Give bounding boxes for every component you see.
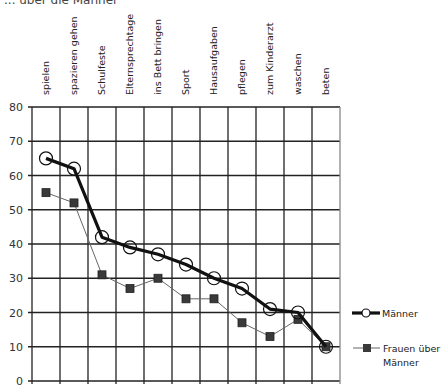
x-category-label: spielen <box>40 61 51 95</box>
x-category-label: ins Bett bringen <box>152 19 163 95</box>
y-tick-label: 50 <box>9 204 23 217</box>
square-marker <box>126 285 134 293</box>
y-tick-label: 10 <box>9 341 23 354</box>
legend-label-maenner: Männer <box>382 308 418 319</box>
x-category-label: zum Kinderarzt <box>264 22 275 95</box>
x-category-label: spazieren gehen <box>68 16 79 95</box>
y-tick-label: 30 <box>9 272 23 285</box>
y-tick-label: 0 <box>16 375 23 388</box>
x-category-label: Elternsprechtage <box>124 14 135 95</box>
square-marker <box>154 274 162 282</box>
x-category-label: Schulfeste <box>96 45 107 95</box>
y-tick-label: 80 <box>9 101 23 114</box>
square-marker <box>98 271 106 279</box>
square-marker <box>70 199 78 207</box>
y-axis: 01020304050607080 <box>9 101 23 388</box>
y-tick-label: 20 <box>9 307 23 320</box>
x-category-label: Sport <box>180 69 191 95</box>
line-chart: 01020304050607080 spielenspazieren gehen… <box>0 0 448 391</box>
legend-label-frauen: Männer <box>383 357 419 368</box>
y-tick-label: 40 <box>9 238 23 251</box>
chart-legend: MännerFrauen überMänner <box>352 308 440 368</box>
x-axis-category-labels: spielenspazieren gehenSchulfesteElternsp… <box>40 14 331 95</box>
square-marker <box>238 319 246 327</box>
square-marker <box>42 189 50 197</box>
x-category-label: Hausaufgaben <box>208 26 219 95</box>
x-category-label: beten <box>320 68 331 95</box>
square-marker <box>266 332 274 340</box>
square-marker <box>182 295 190 303</box>
square-marker <box>210 295 218 303</box>
x-category-label: pflegen <box>236 59 247 95</box>
legend-square-marker-icon <box>363 344 371 352</box>
legend-circle-marker-icon <box>362 309 370 317</box>
chart-series <box>40 152 333 353</box>
chart-grid <box>28 107 340 384</box>
x-category-label: waschen <box>292 53 303 95</box>
legend-label-frauen: Frauen über <box>383 343 440 354</box>
y-tick-label: 60 <box>9 170 23 183</box>
y-tick-label: 70 <box>9 135 23 148</box>
